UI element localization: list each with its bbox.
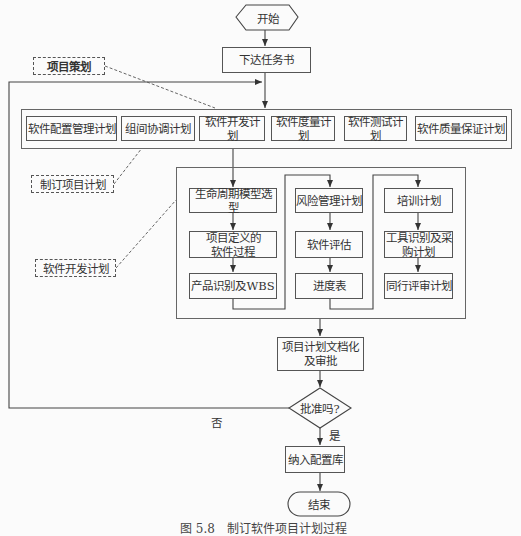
plan-config-mgmt: 软件配置管理计划 bbox=[26, 116, 117, 141]
plan-testing-label: 软件测试计划 bbox=[345, 115, 406, 143]
document-approve-label: 项目计划文档化 及审批 bbox=[282, 340, 359, 368]
tool-procurement-label: 工具识别及采 购计划 bbox=[386, 231, 452, 259]
peer-review-label: 同行评审计划 bbox=[386, 279, 452, 293]
decision-label: 批准吗? bbox=[300, 400, 339, 416]
plan-testing: 软件测试计划 bbox=[344, 116, 407, 141]
tool-procurement-box: 工具识别及采 购计划 bbox=[384, 231, 453, 258]
no-label: 否 bbox=[211, 414, 222, 430]
end-label: 结束 bbox=[308, 496, 330, 512]
defined-process-box: 项目定义的 软件过程 bbox=[189, 231, 277, 258]
annotation-software-dev-plan: 软件开发计划 bbox=[35, 259, 116, 277]
baseline-box: 纳入配置库 bbox=[285, 446, 345, 473]
annotation-project-planning-label: 项目策划 bbox=[47, 58, 91, 74]
plan-measurement: 软件度量计划 bbox=[271, 116, 335, 141]
plan-software-dev-label: 软件开发计划 bbox=[200, 115, 264, 143]
issue-task-label: 下达任务书 bbox=[239, 53, 294, 67]
plan-quality-assurance-label: 软件质量保证计划 bbox=[417, 122, 505, 136]
plan-measurement-label: 软件度量计划 bbox=[272, 115, 334, 143]
schedule-label: 进度表 bbox=[313, 279, 346, 293]
yes-label: 是 bbox=[329, 427, 340, 443]
training-plan-label: 培训计划 bbox=[397, 194, 441, 208]
annotation-project-planning: 项目策划 bbox=[33, 57, 105, 75]
start-node: 开始 bbox=[246, 5, 289, 30]
figure-caption-text: 图 5.8 制订软件项目计划过程 bbox=[180, 522, 347, 536]
training-plan-box: 培训计划 bbox=[384, 188, 453, 213]
document-approve-box: 项目计划文档化 及审批 bbox=[277, 337, 364, 371]
plan-inter-group-label: 组间协调计划 bbox=[125, 122, 191, 136]
figure-caption: 图 5.8 制订软件项目计划过程 bbox=[180, 519, 347, 536]
annotation-make-project-plan: 制订项目计划 bbox=[31, 175, 114, 193]
baseline-label: 纳入配置库 bbox=[288, 453, 343, 467]
schedule-box: 进度表 bbox=[295, 273, 363, 299]
product-wbs-box: 产品识别及WBS bbox=[189, 273, 277, 299]
annotation-make-project-plan-label: 制订项目计划 bbox=[40, 176, 106, 192]
product-wbs-label: 产品识别及WBS bbox=[191, 279, 274, 293]
start-label: 开始 bbox=[257, 10, 279, 26]
risk-mgmt-box: 风险管理计划 bbox=[295, 188, 363, 213]
plan-inter-group: 组间协调计划 bbox=[121, 116, 195, 141]
lifecycle-model-label: 生命周期模型选型 bbox=[190, 187, 276, 215]
decision-node: 批准吗? bbox=[290, 398, 350, 418]
defined-process-label: 项目定义的 软件过程 bbox=[206, 231, 261, 259]
annotation-software-dev-plan-label: 软件开发计划 bbox=[43, 260, 109, 276]
end-node: 结束 bbox=[288, 492, 350, 516]
plan-quality-assurance: 软件质量保证计划 bbox=[415, 116, 507, 141]
software-estimate-label: 软件评估 bbox=[307, 238, 351, 252]
software-estimate-box: 软件评估 bbox=[295, 231, 363, 258]
plan-software-dev: 软件开发计划 bbox=[199, 116, 265, 141]
lifecycle-model-box: 生命周期模型选型 bbox=[189, 188, 277, 213]
peer-review-box: 同行评审计划 bbox=[384, 273, 453, 299]
plan-config-mgmt-label: 软件配置管理计划 bbox=[28, 122, 116, 136]
risk-mgmt-label: 风险管理计划 bbox=[296, 194, 362, 208]
issue-task-box: 下达任务书 bbox=[222, 47, 311, 73]
